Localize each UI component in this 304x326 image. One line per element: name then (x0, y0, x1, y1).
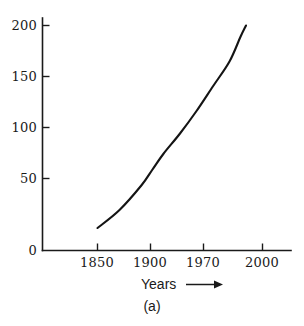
y-tick-label-0: 0 (29, 243, 37, 258)
x-tick-label-1970: 1970 (186, 255, 220, 270)
right-arrow-icon (186, 281, 223, 289)
y-tick-label-50: 50 (20, 171, 37, 186)
line-chart: 200 150 100 50 0 1850 1900 1970 2000 Yea… (0, 0, 304, 326)
panel-caption: (a) (143, 298, 160, 314)
figure-container: 200 150 100 50 0 1850 1900 1970 2000 Yea… (0, 0, 304, 326)
y-tick-label-100: 100 (12, 120, 37, 135)
x-axis-title: Years (141, 276, 176, 292)
y-tick-label-150: 150 (12, 69, 37, 84)
x-tick-label-2000: 2000 (245, 255, 279, 270)
x-tick-label-1900: 1900 (133, 255, 167, 270)
y-tick-label-200: 200 (12, 18, 37, 33)
x-tick-label-1850: 1850 (80, 255, 114, 270)
data-series-line (98, 26, 247, 229)
